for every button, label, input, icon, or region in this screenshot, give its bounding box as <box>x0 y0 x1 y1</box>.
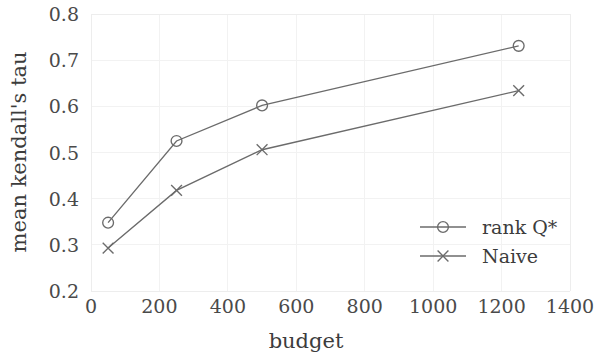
x-tick-label: 1000 <box>409 295 457 317</box>
chart-figure: 0200400600800100012001400 0.20.30.40.50.… <box>0 0 613 356</box>
y-axis-title: mean kendall's tau <box>7 52 31 253</box>
data-point-marker <box>103 243 114 254</box>
legend-item-label: Naive <box>482 245 538 267</box>
y-tick-label: 0.7 <box>49 49 79 71</box>
x-tick-label: 400 <box>210 295 246 317</box>
x-tick-label: 600 <box>278 295 314 317</box>
x-tick-label: 0 <box>85 295 97 317</box>
x-tick-label: 200 <box>141 295 177 317</box>
line-chart: 0200400600800100012001400 0.20.30.40.50.… <box>0 0 613 356</box>
legend-item-label: rank Q* <box>482 216 558 238</box>
x-tick-label: 1400 <box>546 295 594 317</box>
y-tick-label: 0.4 <box>49 188 79 210</box>
x-tick-label: 800 <box>347 295 383 317</box>
y-tick-label: 0.5 <box>49 142 79 164</box>
x-tick-label: 1200 <box>477 295 525 317</box>
y-tick-label: 0.2 <box>49 280 79 302</box>
data-point-marker <box>171 185 182 196</box>
y-axis-tick-labels: 0.20.30.40.50.60.70.8 <box>49 3 79 302</box>
y-tick-label: 0.8 <box>49 3 79 25</box>
data-point-marker <box>103 217 114 228</box>
x-axis-title: budget <box>269 329 344 353</box>
data-point-marker <box>257 144 268 155</box>
data-point-marker <box>513 85 524 96</box>
x-axis-tick-labels: 0200400600800100012001400 <box>85 295 594 317</box>
y-tick-label: 0.3 <box>49 234 79 256</box>
chart-legend: rank Q*Naive <box>414 205 564 267</box>
y-tick-label: 0.6 <box>49 95 79 117</box>
